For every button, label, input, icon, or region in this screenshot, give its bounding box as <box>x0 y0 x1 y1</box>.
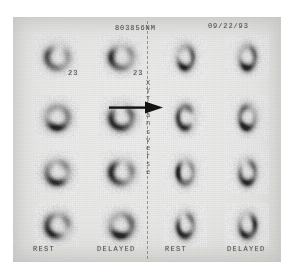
orientation-char: s <box>146 128 150 136</box>
tomographic-slice <box>35 150 79 194</box>
slice-number-label: 23 <box>133 69 143 77</box>
orientation-char: Y <box>146 87 150 95</box>
slice-number-label: 23 <box>68 69 78 77</box>
panel-label-rest-left: REST <box>33 245 55 253</box>
tomographic-slice <box>35 95 79 139</box>
screenshot-viewport: XYTransverse 803856NM 09/22/93 23 23 RES… <box>0 0 293 273</box>
study-date-text: 09/22/93 <box>208 22 249 30</box>
slice-image <box>163 35 207 79</box>
slice-image <box>99 203 143 247</box>
tomographic-slice <box>225 150 269 194</box>
tomographic-slice <box>99 203 143 247</box>
panel-label-delayed-right: DELAYED <box>227 245 266 253</box>
tomographic-slice <box>225 95 269 139</box>
slice-image <box>225 35 269 79</box>
tomographic-slice <box>99 150 143 194</box>
orientation-char: X <box>146 79 150 87</box>
slice-image <box>35 95 79 139</box>
orientation-label: XYTransverse <box>141 79 155 176</box>
slice-image <box>163 150 207 194</box>
tomographic-slice <box>163 150 207 194</box>
slice-image <box>99 150 143 194</box>
orientation-char: s <box>146 160 150 168</box>
orientation-char: e <box>146 168 150 176</box>
tomographic-slice <box>163 35 207 79</box>
slice-image <box>163 203 207 247</box>
slice-image <box>225 95 269 139</box>
orientation-char: v <box>146 136 150 144</box>
orientation-char: e <box>146 144 150 152</box>
finding-arrow-icon <box>109 101 163 115</box>
spect-film-sheet: XYTransverse 803856NM 09/22/93 23 23 RES… <box>13 17 281 262</box>
panel-label-delayed-left: DELAYED <box>97 245 136 253</box>
slice-image <box>225 150 269 194</box>
slice-image <box>35 203 79 247</box>
tomographic-slice <box>163 203 207 247</box>
orientation-char: n <box>146 119 150 127</box>
slice-image <box>225 203 269 247</box>
tomographic-slice <box>35 203 79 247</box>
slice-image <box>35 150 79 194</box>
study-id-text: 803856NM <box>115 24 156 32</box>
slice-image <box>163 95 207 139</box>
panel-label-rest-right: REST <box>165 245 187 253</box>
tomographic-slice <box>225 35 269 79</box>
tomographic-slice <box>225 203 269 247</box>
orientation-char: r <box>146 152 150 160</box>
tomographic-slice <box>163 95 207 139</box>
